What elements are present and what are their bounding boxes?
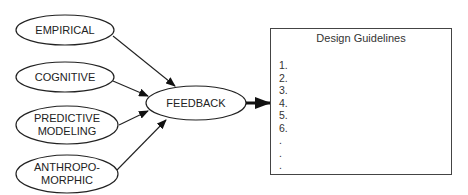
list-item: . [279, 147, 288, 160]
list-item: . [279, 134, 288, 147]
label-line: COGNITIVE [35, 71, 96, 84]
label-cognitive: COGNITIVE [35, 71, 96, 84]
arrow-cognitive-to-feedback [113, 81, 148, 96]
list-item: 4. [279, 97, 288, 110]
label-line: ANTHROPO- [34, 161, 100, 174]
label-line: PREDICTIVE [34, 112, 100, 125]
label-line: EMPIRICAL [35, 24, 94, 37]
label-predictive-modeling: PREDICTIVE MODELING [34, 112, 100, 138]
list-item: 1. [279, 59, 288, 72]
design-guidelines-title: Design Guidelines [271, 32, 451, 44]
label-line: FEEDBACK [166, 97, 225, 110]
arrow-empirical-to-feedback [113, 36, 175, 86]
arrow-anthropomorphic-to-feedback [117, 120, 166, 170]
guidelines-list: 1. 2. 3. 4. 5. 6. . . . [279, 59, 288, 172]
label-line: MODELING [34, 125, 100, 138]
list-item: 6. [279, 122, 288, 135]
list-item: 3. [279, 84, 288, 97]
label-line: MORPHIC [34, 174, 100, 187]
list-item: 5. [279, 109, 288, 122]
list-item: . [279, 159, 288, 172]
label-empirical: EMPIRICAL [35, 24, 94, 37]
arrow-predictive-to-feedback [119, 111, 148, 125]
list-item: 2. [279, 72, 288, 85]
label-anthropomorphic: ANTHROPO- MORPHIC [34, 161, 100, 187]
design-guidelines-box: Design Guidelines 1. 2. 3. 4. 5. 6. . . … [270, 28, 452, 175]
label-feedback: FEEDBACK [166, 97, 225, 110]
